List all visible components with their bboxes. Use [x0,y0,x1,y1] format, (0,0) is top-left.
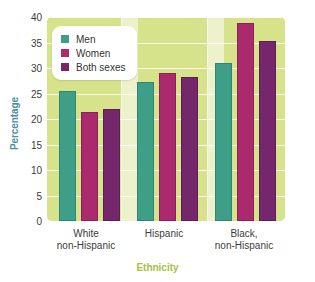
bar-men-group-3 [215,63,232,221]
legend-entry: Both sexes [61,60,125,74]
y-tick-label: 35 [31,37,42,48]
y-tick-label: 15 [31,139,42,150]
bar-both-group-3 [259,41,276,221]
x-group-label-line: non-Hispanic [184,240,304,252]
x-group-label: Black,non-Hispanic [184,228,304,252]
y-tick-label: 5 [36,190,42,201]
x-axis-title: Ethnicity [0,262,315,273]
y-tick-label: 20 [31,114,42,125]
gridline [47,17,285,18]
bar-both-group-1 [103,109,120,221]
bar-women-group-3 [237,23,254,221]
y-tick-label: 25 [31,88,42,99]
y-tick-label: 0 [36,216,42,227]
bar-both-group-2 [181,77,198,221]
legend-entry: Women [61,46,125,60]
y-tick-label: 10 [31,165,42,176]
legend-swatch-icon [61,63,69,71]
vertical-gridline [207,17,208,221]
bar-men-group-1 [59,91,76,221]
bar-women-group-1 [81,112,98,221]
x-group-label-line: Black, [184,228,304,240]
y-tick-label: 40 [31,12,42,23]
legend-label: Women [76,48,110,59]
y-tick-label: 30 [31,63,42,74]
chart-figure: 0510152025303540 Percentage Whitenon-His… [0,0,315,282]
chart-legend: MenWomenBoth sexes [52,26,137,80]
legend-swatch-icon [61,35,69,43]
y-axis-title: Percentage [9,84,20,164]
x-group-label-line: non-Hispanic [26,240,146,252]
legend-entry: Men [61,32,125,46]
legend-swatch-icon [61,49,69,57]
legend-label: Both sexes [76,62,125,73]
bar-women-group-2 [159,73,176,221]
legend-label: Men [76,34,95,45]
bar-men-group-2 [137,82,154,221]
